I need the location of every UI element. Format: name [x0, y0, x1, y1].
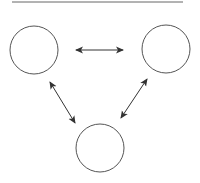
node-left: [10, 26, 58, 74]
arrow-right-bottom: [121, 79, 147, 118]
node-bottom: [76, 124, 124, 172]
node-right: [142, 25, 190, 73]
arrow-left-bottom: [50, 82, 75, 123]
nodes-group: [10, 25, 190, 172]
diagram-canvas: [0, 0, 200, 183]
edges-group: [50, 50, 147, 123]
